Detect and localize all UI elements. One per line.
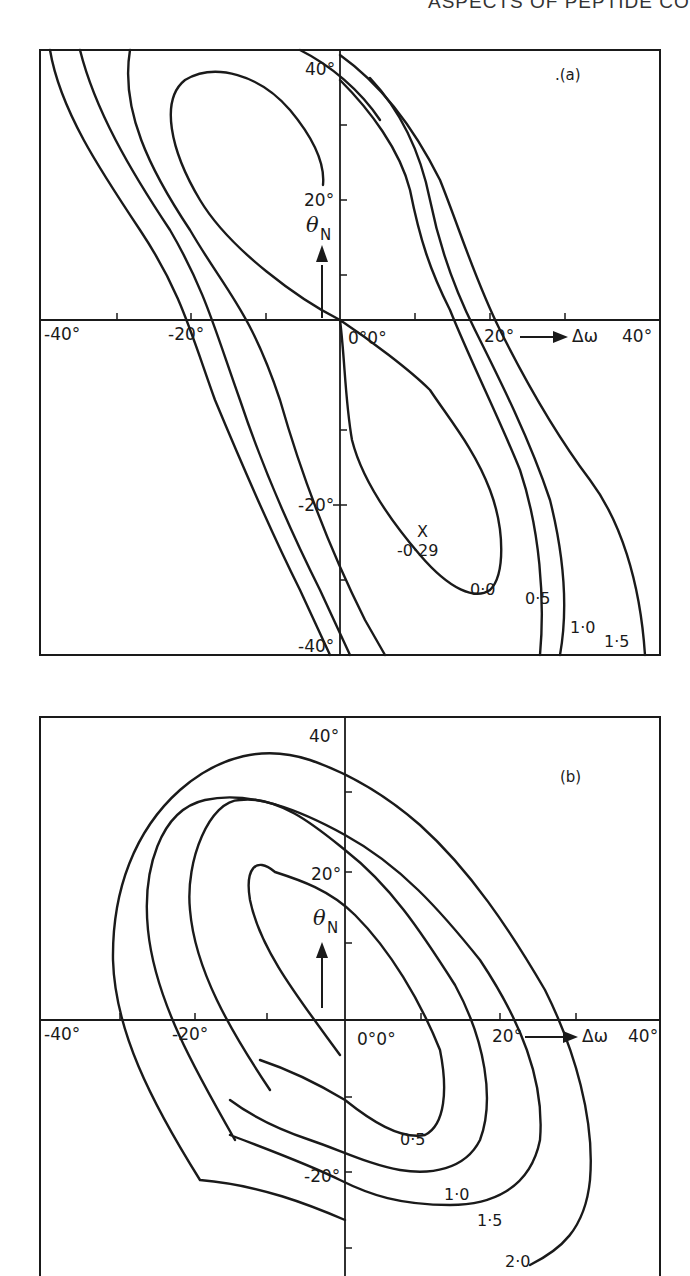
chart-a: .(a) 40° 20° -20° -40° -40° -20° 0°0° 20…	[40, 50, 660, 656]
chart-a-origin-label: 0°0°	[348, 328, 387, 348]
chart-a-contour-label-1-5: 1·5	[604, 632, 629, 651]
contour-b-2-0	[113, 753, 591, 1265]
chart-a-ylabel-theta: θ	[306, 213, 319, 237]
chart-a-panel-label: .(a)	[555, 66, 581, 84]
contour-b-0-5	[249, 865, 444, 1136]
contour-a-1-0	[80, 50, 564, 655]
chart-a-xtick-neg20: -20°	[168, 324, 204, 344]
chart-a-xaxis-label: Δω	[572, 326, 598, 346]
chart-a-xtick-40: 40°	[622, 326, 652, 346]
chart-b-ylabel-theta: θ	[313, 906, 326, 930]
chart-a-frame	[40, 50, 660, 655]
chart-b-x-ticks	[120, 1013, 576, 1020]
chart-b-contours	[113, 753, 591, 1265]
chart-a-contours	[50, 50, 645, 655]
chart-b-contour-label-1-0: 1·0	[444, 1185, 469, 1204]
chart-b-ytick-40: 40°	[309, 726, 339, 746]
chart-a-ylabel-sub: N	[320, 226, 331, 244]
chart-b-xaxis-label: Δω	[582, 1026, 608, 1046]
chart-a-contour-label-0-5: 0·5	[525, 589, 550, 608]
chart-b-contour-label-1-5: 1·5	[477, 1211, 502, 1230]
chart-b-contour-label-2-0: 2·0	[505, 1252, 530, 1271]
chart-b-xtick-neg40: -40°	[44, 1024, 80, 1044]
chart-b-xtick-40: 40°	[628, 1026, 658, 1046]
chart-b-xtick-20: 20°	[492, 1026, 522, 1046]
chart-b-y-arrow	[316, 942, 328, 1008]
chart-a-ytick-neg40: -40°	[298, 636, 334, 656]
contour-a-1-5	[50, 50, 645, 655]
contour-b-1-5	[147, 797, 541, 1205]
contour-b-1-0	[189, 800, 487, 1172]
chart-b-x-arrow	[525, 1031, 578, 1043]
chart-a-xtick-20: 20°	[484, 326, 514, 346]
chart-a-min-marker: X	[417, 522, 428, 541]
chart-b: (b) 40° 20° -20° -40° -20° 0°0° 20° Δω 4…	[40, 717, 660, 1276]
chart-a-x-arrow	[520, 331, 568, 343]
chart-a-xtick-neg40: -40°	[44, 324, 80, 344]
chart-b-contour-label-0-5: 0·5	[400, 1130, 425, 1149]
chart-a-ytick-40: 40°	[305, 59, 335, 79]
chart-b-xtick-neg20: -20°	[172, 1024, 208, 1044]
chart-b-ylabel-sub: N	[327, 919, 338, 937]
chart-b-ytick-20: 20°	[311, 864, 341, 884]
contour-a-0-5	[128, 50, 542, 655]
chart-a-ytick-neg20: -20°	[298, 495, 334, 515]
chart-a-ytick-20: 20°	[304, 190, 334, 210]
chart-b-ytick-neg20: -20°	[304, 1166, 340, 1186]
chart-a-contour-label-0-0: 0·0	[470, 580, 495, 599]
chart-b-origin-label: 0°0°	[357, 1029, 396, 1049]
chart-b-frame	[40, 717, 660, 1276]
chart-b-panel-label: (b)	[560, 768, 581, 786]
chart-a-min-value: -0·29	[397, 541, 438, 560]
chart-a-contour-label-1-0: 1·0	[570, 618, 595, 637]
